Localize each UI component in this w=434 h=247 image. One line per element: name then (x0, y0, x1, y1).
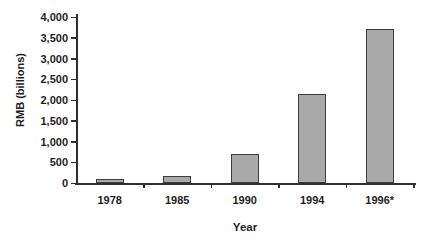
y-tick-label: 3,500 (20, 32, 68, 44)
bar-1994 (298, 94, 326, 183)
x-tick-label: 1994 (282, 194, 342, 206)
bar-chart: RMB (billions) Year 05001,0001,5002,0002… (0, 0, 434, 247)
y-tick (71, 120, 76, 122)
bar-1978 (96, 179, 124, 183)
y-tick-label: 2,500 (20, 73, 68, 85)
y-tick-label: 2,000 (20, 94, 68, 106)
y-tick (71, 141, 76, 143)
y-tick-label: 3,000 (20, 53, 68, 65)
x-axis-title: Year (215, 221, 275, 233)
y-tick-label: 0 (20, 177, 68, 189)
x-tick (278, 183, 280, 188)
x-tick (346, 183, 348, 188)
y-tick (71, 17, 76, 19)
x-axis-line (75, 183, 416, 185)
y-tick (71, 37, 76, 39)
y-tick-label: 1,000 (20, 136, 68, 148)
bar-1990 (231, 154, 259, 183)
y-tick-label: 4,000 (20, 11, 68, 23)
y-tick (71, 162, 76, 164)
bar-1985 (163, 176, 191, 183)
x-tick (143, 183, 145, 188)
y-tick-label: 1,500 (20, 115, 68, 127)
x-tick-label: 1990 (215, 194, 275, 206)
y-tick (71, 79, 76, 81)
y-tick (71, 58, 76, 60)
x-tick (211, 183, 213, 188)
x-tick (413, 183, 415, 188)
y-tick (71, 100, 76, 102)
bar-1996 (366, 29, 394, 183)
x-tick-label: 1978 (80, 194, 140, 206)
x-tick-label: 1996* (350, 194, 410, 206)
x-tick-label: 1985 (147, 194, 207, 206)
y-tick-label: 500 (20, 156, 68, 168)
y-axis-line (76, 14, 78, 183)
y-tick (71, 183, 76, 185)
